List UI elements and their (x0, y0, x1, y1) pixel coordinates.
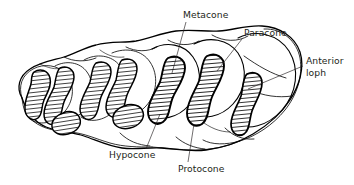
label-metacone: Metacone (183, 9, 229, 20)
label-protocone: Protocone (178, 163, 225, 174)
label-paracone: Paracone (244, 27, 287, 38)
label-anterior-loph-line1: Anterior (306, 55, 344, 66)
tooth-diagram: Metacone Paracone Anterior loph Hypocone… (0, 0, 354, 185)
label-anterior-loph-line2: loph (306, 67, 326, 78)
figure-container: Metacone Paracone Anterior loph Hypocone… (0, 0, 354, 185)
label-hypocone: Hypocone (109, 149, 156, 160)
